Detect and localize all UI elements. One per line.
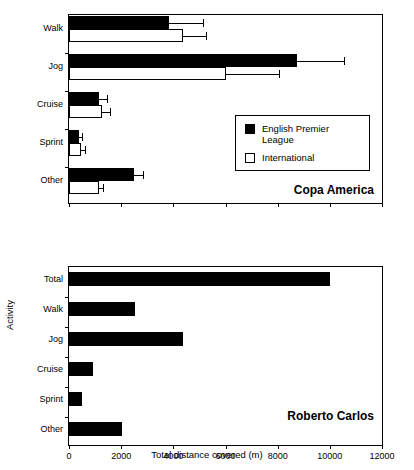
bar [69, 362, 93, 376]
bar [69, 29, 183, 42]
bar [69, 422, 122, 436]
y-axis-category-label: Jog [48, 334, 63, 344]
error-bar-cap [110, 108, 111, 116]
x-axis-tick [69, 203, 70, 207]
x-axis-title: Total distance covered (m) [0, 449, 414, 460]
error-bar-cap [206, 32, 207, 40]
y-axis-category-label: Sprint [39, 394, 63, 404]
error-bar-cap [107, 95, 108, 103]
error-bar-cap [103, 184, 104, 192]
error-bar [183, 36, 206, 37]
y-axis-tick [65, 387, 69, 388]
error-bar-cap [82, 133, 83, 141]
y-axis-category-label: Walk [43, 23, 63, 33]
error-bar [169, 23, 203, 24]
y-axis-category-label: Other [40, 175, 63, 185]
plot-area-top: English Premier League International Cop… [68, 14, 383, 204]
bar [69, 181, 99, 194]
figure-two-panel-bar-chart: English Premier League International Cop… [0, 0, 414, 470]
panel-roberto-carlos: Roberto Carlos 0200040006000800010000120… [0, 232, 414, 470]
bar [69, 272, 330, 286]
y-axis-category-label: Sprint [39, 137, 63, 147]
legend: English Premier League International [235, 115, 370, 171]
bar [69, 143, 81, 156]
legend-label-international: International [262, 152, 314, 163]
error-bar [297, 61, 344, 62]
bar [69, 92, 99, 105]
open-square-icon [245, 153, 255, 163]
y-axis-category-label: Cruise [37, 364, 63, 374]
y-axis-category-label: Walk [43, 304, 63, 314]
y-axis-tick [65, 297, 69, 298]
error-bar [226, 74, 279, 75]
error-bar [99, 99, 107, 100]
x-axis-tick [382, 203, 383, 207]
error-bar-cap [279, 70, 280, 78]
panel-copa-america: English Premier League International Cop… [0, 0, 414, 232]
bar [69, 168, 134, 181]
plot-area-bottom: Roberto Carlos 0200040006000800010000120… [68, 266, 383, 446]
bar [69, 16, 169, 29]
x-axis-tick [278, 203, 279, 207]
x-axis-tick [226, 203, 227, 207]
filled-square-icon [245, 124, 255, 134]
error-bar [134, 175, 144, 176]
x-axis-tick [173, 203, 174, 207]
y-axis-tick [65, 417, 69, 418]
error-bar-cap [203, 19, 204, 27]
bar [69, 54, 297, 67]
legend-label-epl: English Premier League [262, 123, 361, 145]
panel-title-copa-america: Copa America [294, 183, 374, 197]
error-bar [102, 112, 111, 113]
y-axis-tick [65, 327, 69, 328]
y-axis-category-label: Jog [48, 61, 63, 71]
panel-title-roberto-carlos: Roberto Carlos [287, 409, 374, 423]
y-axis-category-label: Other [40, 424, 63, 434]
bar [69, 332, 183, 346]
bar [69, 302, 135, 316]
bar [69, 392, 82, 406]
error-bar-cap [143, 171, 144, 179]
error-bar-cap [85, 146, 86, 154]
x-axis-tick [121, 203, 122, 207]
bar [69, 130, 79, 143]
bar [69, 105, 102, 118]
error-bar-cap [344, 57, 345, 65]
y-axis-category-label: Cruise [37, 99, 63, 109]
y-axis-title: Activity [4, 300, 15, 330]
legend-item-epl: English Premier League [245, 123, 361, 145]
bar [69, 67, 226, 80]
x-axis-tick [330, 203, 331, 207]
y-axis-tick [65, 357, 69, 358]
y-axis-category-label: Total [44, 274, 63, 284]
legend-item-international: International [245, 152, 361, 163]
